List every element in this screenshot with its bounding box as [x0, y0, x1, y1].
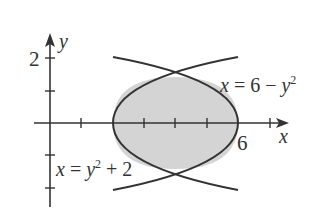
- y-axis-label: y: [57, 30, 68, 53]
- equation-x-equals-6-minus-y-squared: x = 6 − y2: [219, 73, 296, 97]
- x-axis-label: x: [278, 125, 288, 147]
- x-tick-label-6: 6: [237, 131, 248, 155]
- region-between-parabolas-figure: y 2 x 6 x = 6 − y2 x = y2 + 2: [0, 0, 320, 217]
- y-tick-label-2: 2: [29, 47, 40, 71]
- equation-x-equals-y-squared-plus-2: x = y2 + 2: [55, 157, 132, 181]
